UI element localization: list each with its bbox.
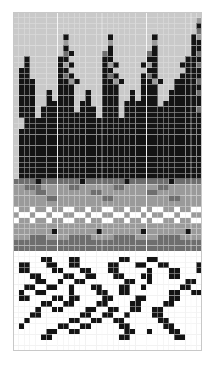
colorwork-chart-canvas [13, 12, 202, 351]
chart-frame [13, 12, 202, 351]
chart-page: Colorwork Knitting Chart Two-color stran… [0, 0, 213, 367]
